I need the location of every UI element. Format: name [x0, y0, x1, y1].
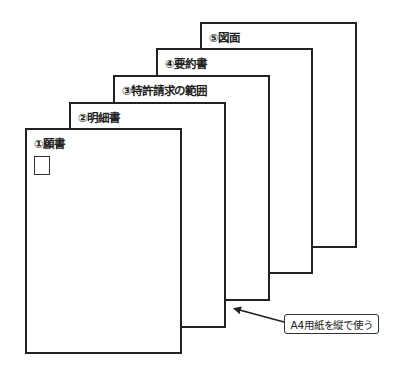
callout-a4-portrait: A4用紙を縦で使う [284, 314, 379, 334]
